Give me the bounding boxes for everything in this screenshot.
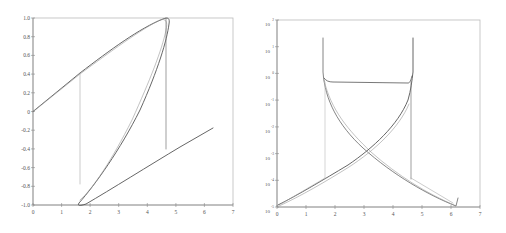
y-tick-label: 1.0 — [23, 15, 30, 21]
x-tick-label: 5 — [175, 209, 178, 215]
left-curves — [33, 18, 213, 205]
y-tick-exp: 1 — [272, 45, 274, 49]
y-tick-exp: 0 — [272, 71, 274, 75]
left-chart: 1.0 0.8 0.6 0.4 0.2 0 -0.2 -0.4 -0.6 -0.… — [0, 0, 253, 233]
plot-frame — [33, 18, 233, 205]
increasing-branch — [278, 38, 413, 205]
y-tick-label: 0 — [27, 109, 30, 115]
x-tick-label: 1 — [60, 209, 63, 215]
x-tick-label: 3 — [363, 211, 366, 217]
x-tick-label: 1 — [305, 211, 308, 217]
y-tick-label: -1.0 — [21, 202, 30, 208]
y-tick-exp: 2 — [272, 18, 274, 22]
right-chart: 10 2 10 1 10 0 10 -1 10 -2 10 -3 10 -4 1… — [253, 0, 506, 233]
y-tick-exp: -4 — [271, 178, 274, 182]
y-tick-base: 10 — [265, 102, 271, 107]
y-tick-base: 10 — [265, 49, 271, 54]
x-tick-label: 6 — [450, 211, 453, 217]
x-tick-label: 3 — [117, 209, 120, 215]
y-tick-label: 0.4 — [23, 71, 30, 77]
y-tick-base: 10 — [265, 209, 271, 214]
y-tick-base: 10 — [265, 22, 271, 27]
y-tick-label: -0.6 — [21, 165, 30, 171]
y-tick-base: 10 — [265, 75, 271, 80]
x-tick-label: 7 — [232, 209, 235, 215]
y-tick-label: -0.8 — [21, 183, 30, 189]
y-tick-label: -0.4 — [21, 146, 30, 152]
y-tick-exp: -2 — [271, 125, 274, 129]
right-curves — [278, 38, 458, 206]
x-tick-label: 2 — [334, 211, 337, 217]
x-tick-label: 0 — [276, 211, 279, 217]
x-tick-label: 7 — [479, 211, 482, 217]
y-tick-label: 0.6 — [23, 52, 30, 58]
y-tick-label: 0.8 — [23, 34, 30, 40]
y-tick-label: 0.2 — [23, 90, 30, 96]
y-tick-exp: -3 — [271, 152, 274, 156]
x-tick-label: 0 — [32, 209, 35, 215]
y-tick-exp: -1 — [271, 98, 274, 102]
x-tick-label: 6 — [203, 209, 206, 215]
decreasing-branch — [323, 38, 458, 206]
plateau — [324, 76, 412, 83]
y-tick-base: 10 — [265, 182, 271, 187]
y-tick-exp: -5 — [271, 205, 274, 209]
y-tick-base: 10 — [265, 129, 271, 134]
x-tick-label: 4 — [146, 209, 149, 215]
plot-frame — [277, 20, 480, 207]
left-chart-plot: 1.0 0.8 0.6 0.4 0.2 0 -0.2 -0.4 -0.6 -0.… — [0, 0, 253, 233]
x-tick-label: 2 — [89, 209, 92, 215]
x-tick-label: 5 — [421, 211, 424, 217]
x-tick-label: 4 — [392, 211, 395, 217]
y-tick-base: 10 — [265, 156, 271, 161]
right-chart-plot: 10 2 10 1 10 0 10 -1 10 -2 10 -3 10 -4 1… — [253, 0, 506, 233]
y-tick-label: -0.2 — [21, 127, 30, 133]
